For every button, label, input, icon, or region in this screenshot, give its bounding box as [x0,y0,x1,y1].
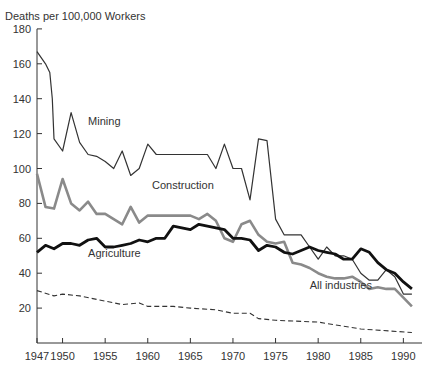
y-tick-label: 80 [19,197,31,209]
series-all-industries [37,291,412,333]
x-tick-label: 1955 [93,350,117,362]
series-label: All industries [310,279,373,291]
x-tick-label: 1970 [221,350,245,362]
x-tick-label: 1990 [391,350,415,362]
x-tick-label: 1980 [306,350,330,362]
y-tick-label: 60 [19,232,31,244]
y-axis-label: Deaths per 100,000 Workers [5,10,146,22]
y-tick-label: 140 [13,93,31,105]
y-tick-label: 40 [19,267,31,279]
x-tick-label: 1950 [50,350,74,362]
x-tick-label: 1975 [263,350,287,362]
y-tick-label: 120 [13,128,31,140]
y-tick-label: 20 [19,302,31,314]
series-labels: MiningConstructionAgricultureAll industr… [88,115,372,291]
series-label: Construction [152,179,214,191]
chart-canvas: 2040608010012014016018019471950195519601… [0,0,428,374]
line-chart: 2040608010012014016018019471950195519601… [0,0,428,374]
y-tick-label: 100 [13,163,31,175]
axes: 2040608010012014016018019471950195519601… [13,23,422,362]
x-tick-label: 1965 [178,350,202,362]
series-label: Mining [88,115,120,127]
y-tick-label: 180 [13,23,31,35]
y-tick-label: 160 [13,58,31,70]
x-tick-label: 1985 [349,350,373,362]
x-tick-label: 1960 [136,350,160,362]
x-tick-label: 1947 [25,350,49,362]
series-label: Agriculture [88,247,141,259]
